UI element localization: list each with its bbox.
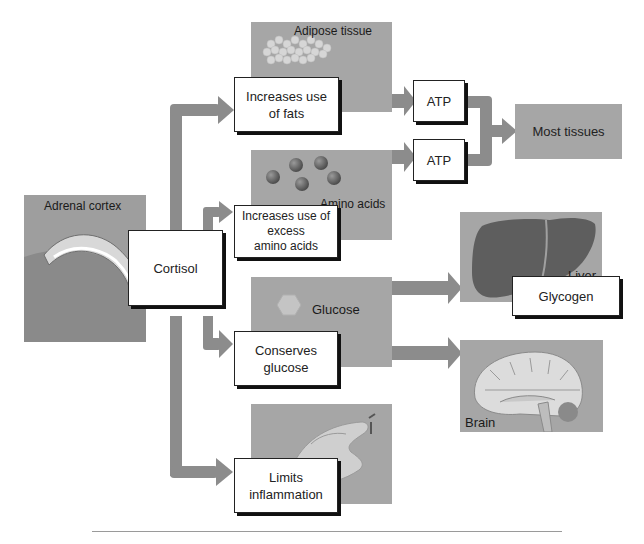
glucose-label: Glucose: [312, 302, 360, 317]
glycogen-box: Glycogen: [512, 276, 620, 316]
amino-line1: Increases use of: [242, 209, 330, 224]
atp-box-1: ATP: [413, 80, 465, 122]
cortisol-label: Cortisol: [153, 260, 197, 277]
most-tissues-panel: Most tissues: [515, 104, 622, 159]
atp-label-1: ATP: [427, 93, 451, 110]
adrenal-cortex-label: Adrenal cortex: [44, 199, 121, 213]
inflammation-effect-box: Limitsinflammation: [234, 458, 338, 513]
trunk-up: [170, 112, 182, 230]
arrow-head-glucose: [219, 330, 233, 358]
glucose-effect-box: Conservesglucose: [234, 331, 338, 386]
inflam-line1: Limits: [249, 469, 323, 486]
arrow-head-amino: [219, 201, 233, 223]
bottom-divider: [92, 531, 562, 532]
amino-acids-effect-box: Increases use ofexcessamino acids: [234, 205, 338, 258]
fats-line2: of fats: [246, 105, 327, 122]
adipose-tissue-label: Adipose tissue: [294, 24, 372, 38]
atp-label-2: ATP: [427, 152, 451, 169]
amino-line2: excess: [242, 224, 330, 239]
inflam-line2: inflammation: [249, 486, 323, 503]
brain-label: Brain: [465, 415, 495, 430]
cortisol-box: Cortisol: [128, 230, 223, 306]
brain-panel: Brain: [460, 340, 603, 432]
arrow-head-fats: [218, 96, 234, 124]
glucose-line2: glucose: [255, 359, 317, 376]
most-tissues-label: Most tissues: [532, 124, 604, 139]
fats-line1: Increases use: [246, 88, 327, 105]
fats-effect-box: Increases useof fats: [234, 77, 339, 132]
arrow-head-inflammation: [216, 458, 233, 486]
glucose-line1: Conserves: [255, 342, 317, 359]
atp-box-2: ATP: [413, 139, 465, 181]
amino-line3: amino acids: [242, 239, 330, 254]
glycogen-label: Glycogen: [539, 288, 594, 305]
trunk-down: [170, 316, 182, 476]
